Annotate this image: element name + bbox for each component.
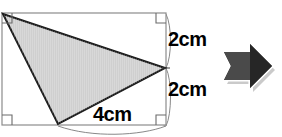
- geometry-figure: [0, 0, 282, 137]
- right-arrow-tail-shade: [224, 52, 250, 80]
- brace-bottom: [58, 126, 166, 134]
- dimension-label-right-bottom: 2cm: [168, 79, 207, 99]
- dimension-label-bottom: 4cm: [93, 104, 132, 124]
- dimension-label-right-top: 2cm: [168, 29, 207, 49]
- figure-canvas: 2cm 2cm 4cm: [0, 0, 282, 137]
- right-arrow-icon[interactable]: [224, 44, 275, 92]
